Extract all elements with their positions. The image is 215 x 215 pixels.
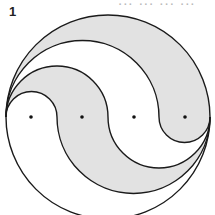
dot-3 bbox=[132, 115, 136, 119]
yin-yang-diagram bbox=[0, 0, 215, 215]
dot-1 bbox=[29, 115, 33, 119]
dot-4 bbox=[183, 115, 187, 119]
dot-2 bbox=[80, 115, 84, 119]
